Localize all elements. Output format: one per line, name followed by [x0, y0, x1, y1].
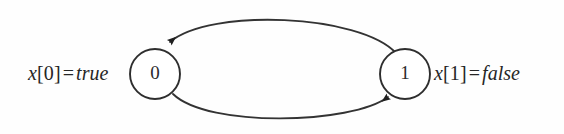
right-var-index: [1] [443, 62, 467, 84]
left-var-index: [0] [37, 62, 61, 84]
left-var-value: true [76, 62, 108, 84]
state-diagram-figure: 0 1 x[0]=true x[1]=false [0, 0, 564, 134]
edge-0-to-1 [173, 94, 388, 118]
left-equals-sign: = [61, 62, 76, 84]
state-node-0-label: 0 [150, 62, 160, 83]
left-var-name: x [28, 62, 37, 84]
right-equals-sign: = [467, 62, 482, 84]
right-var-name: x [434, 62, 443, 84]
right-var-value: false [482, 62, 520, 84]
right-state-annotation: x[1]=false [434, 63, 520, 83]
edge-1-to-0 [170, 20, 396, 53]
state-node-1-label: 1 [400, 62, 410, 83]
left-state-annotation: x[0]=true [28, 63, 108, 83]
